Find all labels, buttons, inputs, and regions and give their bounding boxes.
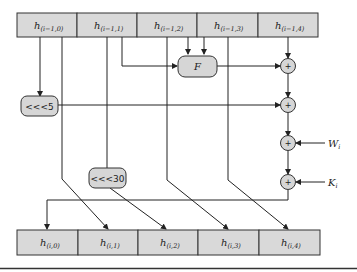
adder-4: + xyxy=(281,175,296,190)
svg-text:<<<5: <<<5 xyxy=(25,102,53,112)
function-box-f: F xyxy=(178,56,217,77)
svg-text:+: + xyxy=(285,62,292,71)
adder-2: + xyxy=(281,98,296,113)
k-input-label: Ki xyxy=(327,177,338,190)
adder-3: + xyxy=(281,136,296,151)
input-registers: h(i−1,0) h(i−1,1) h(i−1,2) h(i−1,3) h(i−… xyxy=(17,13,318,37)
rotate-left-5-box: <<<5 xyxy=(21,96,58,116)
w-input-label: Wi xyxy=(328,138,340,151)
svg-text:<<<30: <<<30 xyxy=(90,174,124,184)
svg-text:+: + xyxy=(285,178,292,187)
svg-text:+: + xyxy=(285,139,292,148)
output-registers: h(i,0) h(i,1) h(i,2) h(i,3) h(i,4) xyxy=(17,230,320,255)
adder-1: + xyxy=(281,59,296,74)
svg-text:F: F xyxy=(193,61,202,72)
rotate-left-30-box: <<<30 xyxy=(89,168,126,188)
svg-text:+: + xyxy=(285,101,292,110)
sha1-round-diagram: h(i−1,0) h(i−1,1) h(i−1,2) h(i−1,3) h(i−… xyxy=(0,0,357,272)
